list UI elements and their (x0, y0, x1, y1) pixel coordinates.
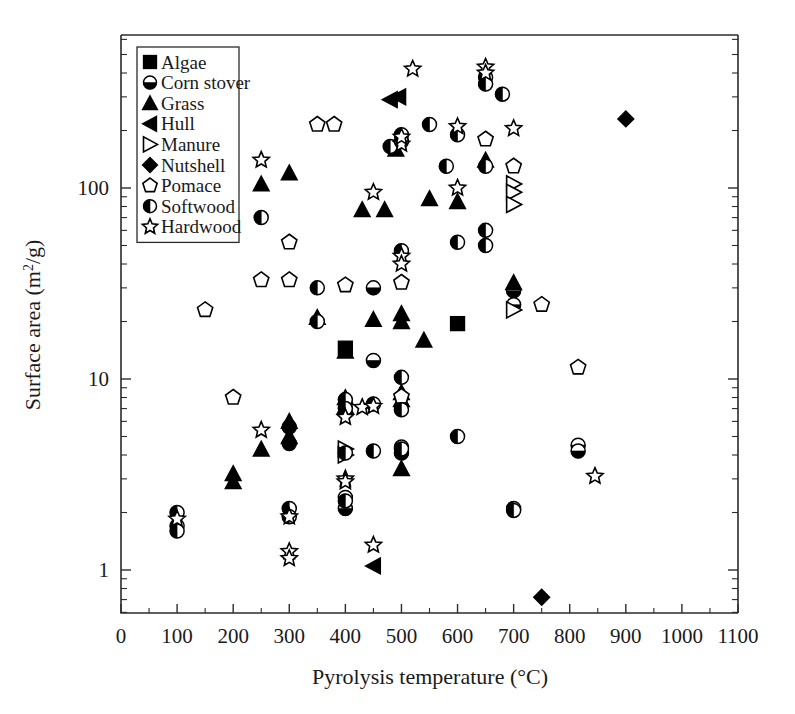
marker-filled-square (451, 317, 465, 331)
series-corn-stover (282, 281, 585, 516)
marker-filled-triangle-up (393, 460, 409, 475)
y-tick-label: 1 (99, 558, 110, 582)
x-axis-title: Pyrolysis temperature (°C) (312, 664, 548, 689)
marker-half-circle-left (439, 159, 453, 173)
marker-filled-triangle-up (365, 311, 381, 326)
marker-half-circle-left (394, 370, 408, 384)
legend-item-label: Hardwood (161, 216, 242, 237)
marker-open-star (253, 152, 269, 167)
marker-half-circle-left (451, 429, 465, 443)
legend-item-label: Algae (161, 52, 206, 73)
x-tick-label: 400 (330, 624, 362, 648)
legend-item-label: Corn stover (161, 72, 251, 93)
x-tick-label: 1100 (717, 624, 758, 648)
x-tick-label: 1000 (661, 624, 703, 648)
x-tick-label: 600 (442, 624, 474, 648)
legend-item-label: Pomace (161, 175, 221, 196)
x-tick-label: 100 (161, 624, 193, 648)
marker-filled-triangle-up (253, 441, 269, 456)
legend-item-label: Softwood (161, 196, 235, 217)
series-hull (365, 89, 405, 574)
marker-open-star (587, 468, 603, 483)
marker-filled-triangle-up (506, 275, 522, 290)
marker-open-pentagon (282, 234, 297, 248)
marker-filled-triangle-up (354, 202, 370, 217)
marker-open-star (281, 550, 297, 565)
marker-open-star (405, 60, 421, 75)
x-tick-label: 0 (116, 624, 127, 648)
y-tick-label: 10 (88, 367, 109, 391)
marker-open-pentagon (571, 359, 586, 373)
legend-item-label: Nutshell (161, 155, 225, 176)
marker-filled-triangle-up (281, 165, 297, 180)
scatter-chart-figure: 010020030040050060070080090010001100 110… (0, 0, 795, 714)
marker-half-circle-left (310, 281, 324, 295)
marker-filled-triangle-up (281, 413, 297, 428)
y-axis-title: Surface area (m2/g) (20, 240, 45, 411)
y-tick-labels: 110100 (78, 176, 110, 582)
marker-filled-triangle-up (422, 191, 438, 206)
marker-half-circle-left (338, 494, 352, 508)
x-tick-label: 900 (610, 624, 642, 648)
marker-filled-square (144, 56, 157, 69)
x-tick-label: 200 (217, 624, 249, 648)
marker-open-star (365, 537, 381, 552)
marker-half-circle-left (479, 223, 493, 237)
marker-half-circle-left (144, 200, 157, 213)
marker-half-circle-bottom (571, 444, 585, 458)
marker-open-pentagon (394, 388, 409, 402)
marker-open-pentagon (534, 297, 549, 311)
marker-open-star (449, 180, 465, 195)
series-manure (338, 176, 521, 463)
marker-open-star (393, 256, 409, 271)
legend-item-label: Hull (161, 113, 195, 134)
marker-half-circle-left (394, 403, 408, 417)
marker-filled-triangle-up (416, 332, 432, 347)
marker-open-pentagon (282, 272, 297, 286)
marker-half-circle-left (310, 315, 324, 329)
marker-half-circle-bottom (144, 76, 157, 89)
legend[interactable]: AlgaeCorn stoverGrassHullManureNutshellP… (137, 47, 251, 242)
marker-filled-diamond (534, 589, 550, 605)
marker-open-star (365, 184, 381, 199)
legend-item-label: Manure (161, 134, 220, 155)
x-tick-label: 800 (554, 624, 586, 648)
x-tick-label: 700 (498, 624, 530, 648)
x-tick-labels: 010020030040050060070080090010001100 (116, 624, 759, 648)
marker-half-circle-bottom (366, 353, 380, 367)
marker-filled-triangle-up (377, 202, 393, 217)
marker-open-pentagon (310, 117, 325, 131)
marker-half-circle-left (394, 442, 408, 456)
marker-open-pentagon (226, 390, 241, 404)
marker-half-circle-left (507, 503, 521, 517)
marker-open-pentagon (254, 272, 269, 286)
marker-half-circle-left (479, 238, 493, 252)
legend-item-label: Grass (161, 93, 204, 114)
marker-filled-triangle-left (365, 558, 380, 574)
plot-svg: 010020030040050060070080090010001100 110… (0, 0, 795, 714)
marker-half-circle-left (423, 118, 437, 132)
marker-half-circle-left (254, 211, 268, 225)
marker-open-triangle-right (507, 196, 522, 212)
marker-half-circle-left (338, 446, 352, 460)
marker-open-pentagon (198, 302, 213, 316)
svg-text:Surface area (m2/g): Surface area (m2/g) (20, 240, 45, 411)
y-tick-label: 100 (78, 176, 110, 200)
marker-open-pentagon (327, 117, 342, 131)
marker-open-pentagon (478, 131, 493, 145)
marker-half-circle-left (495, 87, 509, 101)
marker-open-star (506, 120, 522, 135)
marker-half-circle-left (479, 159, 493, 173)
x-tick-label: 300 (274, 624, 306, 648)
marker-half-circle-bottom (366, 281, 380, 295)
marker-filled-triangle-up (253, 176, 269, 191)
marker-open-pentagon (338, 277, 353, 291)
marker-half-circle-left (366, 444, 380, 458)
marker-filled-diamond (618, 111, 634, 127)
marker-open-star (253, 422, 269, 437)
marker-open-pentagon (394, 275, 409, 289)
marker-half-circle-left (451, 235, 465, 249)
x-tick-label: 500 (386, 624, 418, 648)
series-nutshell (534, 111, 634, 605)
marker-open-pentagon (506, 158, 521, 172)
